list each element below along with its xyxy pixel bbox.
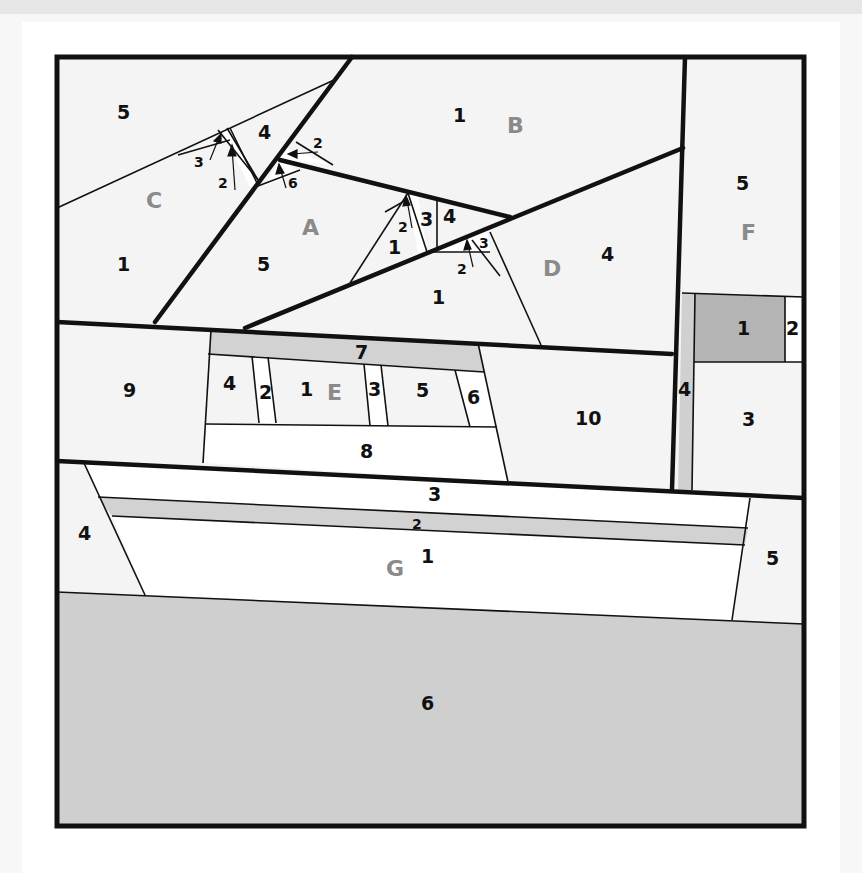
piece-num-a6: 6: [288, 175, 298, 191]
piece-num-e4: 4: [223, 372, 236, 394]
piece-num-c3: 3: [194, 154, 204, 170]
piece-num-f5: 5: [736, 172, 749, 194]
section-label-a: A: [302, 215, 319, 240]
piece-num-e8: 8: [360, 440, 373, 462]
section-label-c: C: [146, 188, 162, 213]
piece-num-a1: 1: [388, 236, 401, 258]
piece-num-e7: 7: [355, 341, 368, 363]
section-label-b: B: [507, 113, 524, 138]
piece-num-a5: 5: [257, 253, 270, 275]
piece-num-f1: 1: [737, 317, 750, 339]
piece-num-g5: 5: [766, 547, 779, 569]
piece-num-f2: 2: [786, 317, 799, 339]
piece-num-d4: 4: [601, 243, 614, 265]
piece-num-g6: 6: [421, 692, 434, 714]
section-label-d: D: [543, 256, 561, 281]
pattern-diagram: C A B D F E G 5 1 4 3 2 1 2 6 5 1 2 3 4 …: [0, 0, 862, 873]
piece-num-c2: 2: [218, 175, 228, 191]
piece-num-g1: 1: [421, 545, 434, 567]
piece-num-d3: 3: [479, 235, 489, 251]
piece-num-g3: 3: [428, 483, 441, 505]
piece-num-e2: 2: [259, 381, 272, 403]
piece-num-d1: 1: [432, 286, 445, 308]
piece-num-g4: 4: [78, 522, 91, 544]
piece-num-c4: 4: [258, 121, 271, 143]
piece-num-f3: 3: [742, 408, 755, 430]
piece-num-c5: 5: [117, 101, 130, 123]
piece-num-e9: 9: [123, 379, 136, 401]
piece-num-c1: 1: [117, 253, 130, 275]
piece-num-e6: 6: [467, 386, 480, 408]
section-label-f: F: [741, 220, 756, 245]
piece-num-f4: 4: [678, 378, 691, 400]
piece-num-e1: 1: [300, 378, 313, 400]
piece-num-b2: 2: [313, 135, 323, 151]
piece-num-a2: 2: [398, 219, 408, 235]
piece-num-e10: 10: [575, 407, 601, 429]
piece-num-e3: 3: [368, 378, 381, 400]
piece-num-b1: 1: [453, 104, 466, 126]
piece-num-e5: 5: [416, 379, 429, 401]
piece-num-d2: 2: [457, 261, 467, 277]
piece-num-a3: 3: [420, 208, 433, 230]
section-label-g: G: [386, 556, 404, 581]
section-label-e: E: [327, 380, 342, 405]
piece-num-g2: 2: [412, 516, 422, 532]
piece-num-a4: 4: [443, 205, 456, 227]
